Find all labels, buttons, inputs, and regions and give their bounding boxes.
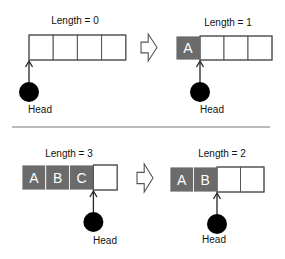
cell-value: B	[201, 172, 210, 188]
array-cell-empty	[224, 36, 248, 60]
cell-value: A	[183, 40, 193, 56]
array-cell-empty	[248, 36, 272, 60]
head-pointer: Head	[83, 191, 117, 246]
array-cell-empty	[102, 35, 126, 60]
block-arrow-right-icon	[137, 164, 153, 192]
block-arrow-right-icon	[141, 34, 157, 61]
head-circle-icon	[190, 82, 210, 102]
cell-value: C	[76, 170, 86, 186]
array-cell-empty	[217, 167, 241, 192]
array-cell-empty	[241, 167, 265, 192]
stack-diagram: Length = 0HeadLength = 1AHeadLength = 3A…	[0, 0, 285, 259]
head-label: Head	[93, 235, 117, 246]
array-panel-pop-before: Length = 3ABCHead	[22, 148, 117, 246]
array-cell-empty	[53, 35, 77, 60]
cell-value: B	[53, 170, 62, 186]
head-pointer: Head	[19, 61, 52, 115]
array-cell-filled: A	[22, 165, 46, 190]
head-label: Head	[200, 104, 224, 115]
cell-value: A	[29, 170, 39, 186]
head-label: Head	[202, 234, 226, 245]
array-cell-filled: A	[170, 167, 194, 192]
head-label: Head	[28, 104, 52, 115]
head-circle-icon	[19, 82, 39, 102]
head-pointer: Head	[190, 61, 224, 115]
head-circle-icon	[83, 212, 103, 232]
array-cell-empty	[77, 35, 101, 60]
array-panel-push-before: Length = 0Head	[19, 15, 126, 115]
array-cell-empty	[29, 35, 53, 60]
array-cell-empty	[93, 165, 117, 190]
length-label: Length = 0	[51, 15, 99, 26]
length-label: Length = 1	[204, 17, 252, 28]
array-cell-filled: B	[194, 167, 218, 192]
length-label: Length = 2	[198, 148, 246, 159]
length-label: Length = 3	[45, 148, 93, 159]
array-cell-filled: A	[176, 36, 200, 60]
cell-value: A	[177, 172, 187, 188]
array-panel-push-after: Length = 1AHead	[176, 17, 272, 115]
array-cell-empty	[200, 36, 224, 60]
array-panel-pop-after: Length = 2ABHead	[170, 148, 264, 245]
array-cell-filled: C	[70, 165, 94, 190]
head-circle-icon	[207, 214, 227, 234]
array-cell-filled: B	[46, 165, 70, 190]
head-pointer: Head	[202, 193, 227, 245]
